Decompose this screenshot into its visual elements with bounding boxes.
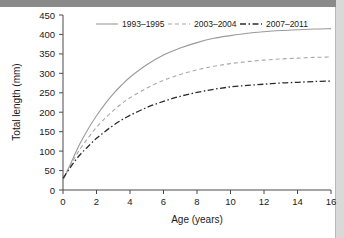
y-tick-label-100: 100 <box>39 146 55 157</box>
y-tick-label-0: 0 <box>50 185 55 196</box>
legend-label-1993-1995: 1993–1995 <box>122 19 165 29</box>
series-line-2007-2011 <box>63 81 331 178</box>
growth-curve-chart: 450 400 350 300 250 200 150 100 50 0 0 2… <box>0 0 344 238</box>
y-tick-label-50: 50 <box>44 165 55 176</box>
y-tick-label-250: 250 <box>39 87 55 98</box>
legend-label-2007-2011: 2007–2011 <box>266 19 308 29</box>
legend-label-2003-2004: 2003–2004 <box>194 19 237 29</box>
x-tick-label-12: 12 <box>259 196 270 207</box>
series-line-1993-1995 <box>63 29 331 181</box>
y-tick-label-450: 450 <box>39 10 55 21</box>
y-axis-title: Total length (mm) <box>11 63 22 140</box>
x-tick-label-14: 14 <box>292 196 303 207</box>
y-tick-label-350: 350 <box>39 48 55 59</box>
y-axis-ticks <box>59 15 63 190</box>
x-tick-label-16: 16 <box>326 196 337 207</box>
chart-legend: 1993–1995 2003–2004 2007–2011 <box>96 19 308 29</box>
x-tick-label-8: 8 <box>194 196 199 207</box>
series-line-2003-2004 <box>63 57 331 179</box>
x-tick-label-2: 2 <box>94 196 99 207</box>
x-tick-label-6: 6 <box>161 196 166 207</box>
y-tick-label-200: 200 <box>39 107 55 118</box>
y-tick-label-150: 150 <box>39 126 55 137</box>
x-tick-label-0: 0 <box>60 196 65 207</box>
y-tick-label-300: 300 <box>39 68 55 79</box>
figure-container: 450 400 350 300 250 200 150 100 50 0 0 2… <box>0 0 344 238</box>
y-tick-label-400: 400 <box>39 29 55 40</box>
x-tick-label-4: 4 <box>127 196 132 207</box>
x-axis-ticks <box>63 190 331 194</box>
x-axis-title: Age (years) <box>171 214 223 225</box>
x-tick-label-10: 10 <box>225 196 236 207</box>
